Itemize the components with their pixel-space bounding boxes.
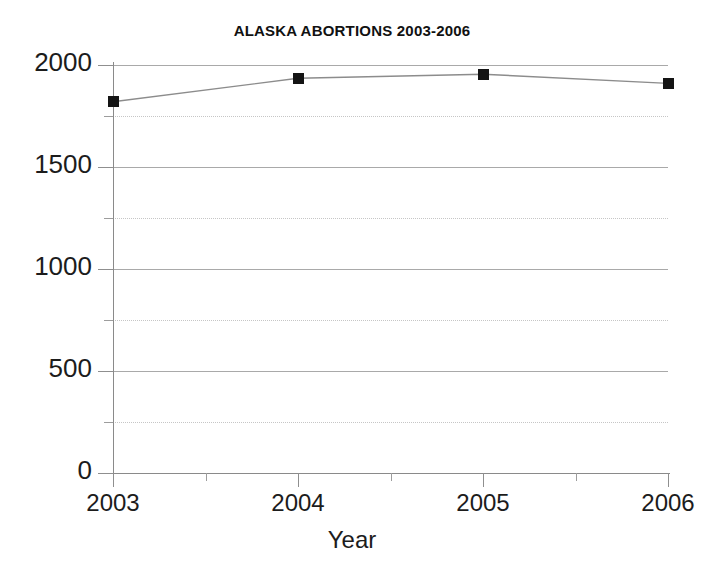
x-axis-title: Year [0, 526, 704, 554]
series-line [0, 0, 704, 585]
data-point-marker [108, 96, 119, 107]
data-point-marker [293, 73, 304, 84]
series-polyline [113, 74, 668, 102]
chart-figure: ALASKA ABORTIONS 2003-2006 0500100015002… [0, 0, 704, 585]
data-point-marker [478, 69, 489, 80]
data-point-marker [663, 78, 674, 89]
